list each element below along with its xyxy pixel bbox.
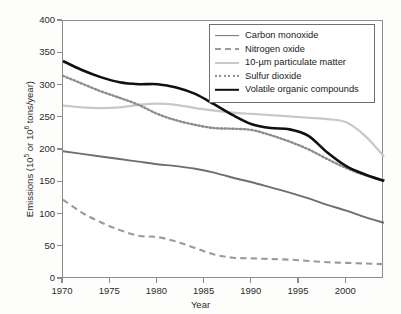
x-tick-mark	[345, 278, 346, 283]
x-axis-title: Year	[0, 299, 401, 310]
x-tick-label: 1990	[240, 285, 261, 296]
legend-item: Nitrogen oxide	[215, 43, 369, 57]
y-axis-title-prefix: Emissions (10	[24, 157, 35, 217]
legend-label: Sulfur dioxide	[245, 71, 301, 82]
legend-item: Carbon monoxide	[215, 29, 369, 43]
legend-swatch-icon	[215, 57, 239, 68]
legend-swatch-icon	[215, 71, 239, 82]
x-tick-label: 1980	[146, 285, 167, 296]
legend-item: Volatile organic compounds	[215, 83, 369, 97]
x-tick-label: 1985	[193, 285, 214, 296]
y-axis-title-exponent-1: 5	[23, 154, 30, 158]
emissions-figure: 050100150200250300350400 Emissions (105 …	[0, 0, 401, 314]
x-tick-mark	[156, 278, 157, 283]
x-tick-mark	[203, 278, 204, 283]
legend-item: Sulfur dioxide	[215, 70, 369, 84]
series-line	[63, 200, 384, 264]
series-line	[63, 151, 384, 223]
legend-label: 10-µm particulate matter	[245, 57, 346, 68]
y-axis-title-exponent-2: 6	[23, 126, 30, 130]
legend-label: Volatile organic compounds	[245, 84, 359, 95]
y-axis-title-suffix: tons/year)	[24, 81, 35, 126]
chart-legend: Carbon monoxideNitrogen oxide10-µm parti…	[209, 24, 375, 103]
legend-label: Nitrogen oxide	[245, 44, 305, 55]
x-axis-ticks: Year 1970197519801985199019952000	[0, 278, 401, 314]
x-tick-label: 2000	[335, 285, 356, 296]
x-tick-mark	[109, 278, 110, 283]
y-axis-title-middle: or 10	[24, 130, 35, 154]
y-tick-label: 400	[0, 14, 62, 26]
legend-item: 10-µm particulate matter	[215, 56, 369, 70]
x-tick-label: 1975	[99, 285, 120, 296]
y-axis-title: Emissions (105 or 106 tons/year)	[23, 34, 35, 264]
legend-swatch-icon	[215, 44, 239, 55]
legend-label: Carbon monoxide	[245, 30, 318, 41]
x-tick-mark	[297, 278, 298, 283]
legend-swatch-icon	[215, 84, 239, 95]
x-tick-mark	[250, 278, 251, 283]
series-line	[63, 104, 384, 157]
x-tick-label: 1995	[287, 285, 308, 296]
x-tick-mark	[61, 278, 62, 283]
x-tick-label: 1970	[51, 285, 72, 296]
legend-swatch-icon	[215, 30, 239, 41]
